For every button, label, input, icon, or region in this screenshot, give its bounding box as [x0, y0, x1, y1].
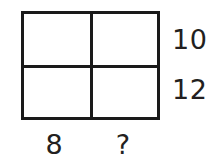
grid-cell-top-right [93, 14, 157, 65]
right-label-bottom-row: 12 [172, 76, 216, 103]
rectangle-grid [21, 11, 160, 120]
bottom-label-left-column: 8 [34, 131, 74, 158]
horizontal-divider-line [24, 65, 157, 68]
grid-cell-bottom-right [93, 68, 157, 117]
bottom-label-right-column-unknown: ? [103, 131, 143, 158]
grid-cell-top-left [24, 14, 90, 65]
grid-cell-bottom-left [24, 68, 90, 117]
diagram-canvas: 10 12 8 ? [0, 0, 219, 166]
right-label-top-row: 10 [172, 26, 216, 53]
